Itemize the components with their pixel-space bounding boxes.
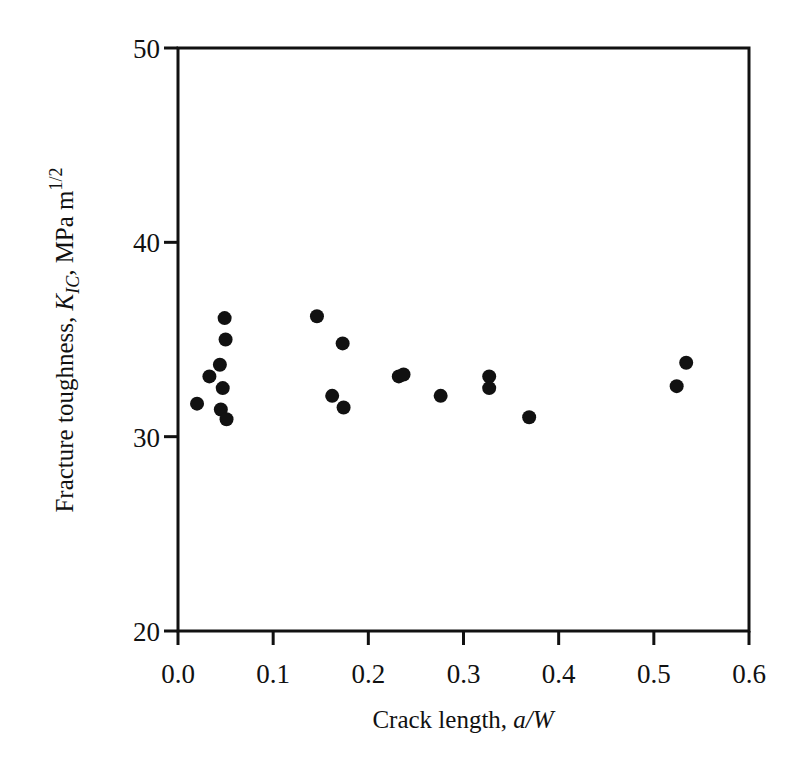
data-point-marker xyxy=(670,379,684,393)
x-tick-label: 0.6 xyxy=(732,659,766,689)
y-axis-title-plain: Fracture toughness, xyxy=(51,311,78,513)
y-axis-title-after: , MPa m xyxy=(51,190,78,276)
scatter-chart: 0.00.10.20.30.40.50.6 20304050 Crack len… xyxy=(0,0,807,782)
x-tick-label: 0.0 xyxy=(161,659,195,689)
x-axis-title-plain: Crack length, xyxy=(372,706,513,733)
data-point-marker xyxy=(325,389,339,403)
x-tick-label: 0.1 xyxy=(256,659,290,689)
y-tick-label: 40 xyxy=(133,228,160,258)
y-axis-title-symbol: K xyxy=(51,293,78,312)
y-axis-title: Fracture toughness, KIC, MPa m1/2 xyxy=(46,167,83,512)
data-point-marker xyxy=(397,367,411,381)
y-tick-label: 50 xyxy=(133,34,160,64)
data-point-marker xyxy=(337,401,351,415)
data-point-marker xyxy=(336,336,350,350)
data-point-marker xyxy=(434,389,448,403)
data-point-marker xyxy=(218,311,232,325)
x-tick-label: 0.4 xyxy=(542,659,576,689)
data-point-marker xyxy=(190,397,204,411)
x-tick-label: 0.5 xyxy=(637,659,671,689)
y-tick-label: 20 xyxy=(133,617,160,647)
x-tick-label: 0.3 xyxy=(447,659,481,689)
data-point-marker xyxy=(522,410,536,424)
data-point-marker xyxy=(216,381,230,395)
x-axis-title-italic: a/W xyxy=(513,706,555,733)
data-point-marker xyxy=(213,358,227,372)
x-tick-label: 0.2 xyxy=(351,659,385,689)
data-point-marker xyxy=(202,369,216,383)
x-axis-title: Crack length, a/W xyxy=(372,706,555,733)
y-tick-label: 30 xyxy=(133,423,160,453)
chart-background xyxy=(0,0,807,782)
y-axis-title-superscript: 1/2 xyxy=(46,167,66,190)
data-point-marker xyxy=(482,381,496,395)
y-axis-title-subscript: IC xyxy=(63,275,83,295)
data-point-marker xyxy=(310,309,324,323)
data-point-marker xyxy=(220,412,234,426)
data-point-marker xyxy=(679,356,693,370)
data-point-marker xyxy=(219,333,233,347)
